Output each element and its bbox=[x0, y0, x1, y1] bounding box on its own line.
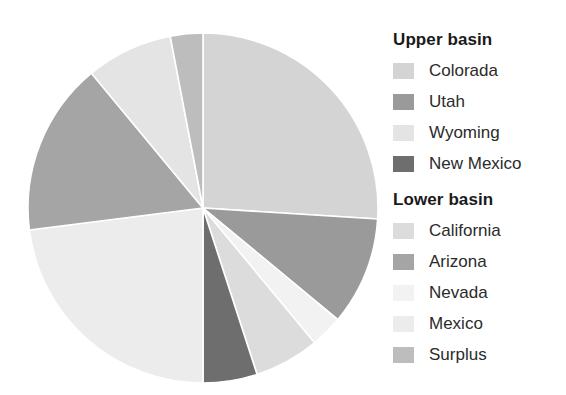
legend-item-surplus[interactable]: Surplus bbox=[389, 339, 566, 370]
legend-swatch-icon bbox=[393, 94, 414, 110]
legend-item-label: California bbox=[429, 221, 501, 241]
legend-item-label: Surplus bbox=[429, 345, 487, 365]
legend-item-label: Nevada bbox=[429, 283, 488, 303]
chart-legend: Upper basin Colorada Utah Wyoming New Me… bbox=[389, 30, 566, 374]
legend-item-utah[interactable]: Utah bbox=[389, 86, 566, 117]
legend-item-mexico[interactable]: Mexico bbox=[389, 308, 566, 339]
legend-group-title: Lower basin bbox=[393, 190, 566, 210]
legend-item-label: Wyoming bbox=[429, 123, 500, 143]
pie-slice-mexico[interactable] bbox=[29, 208, 203, 383]
legend-item-new-mexico[interactable]: New Mexico bbox=[389, 148, 566, 179]
legend-item-label: Arizona bbox=[429, 252, 487, 272]
legend-swatch-icon bbox=[393, 125, 414, 141]
pie-chart-area bbox=[0, 0, 380, 395]
legend-swatch-icon bbox=[393, 347, 414, 363]
legend-group-lower-basin: Lower basin California Arizona Nevada Me… bbox=[389, 190, 566, 370]
legend-item-label: New Mexico bbox=[429, 154, 522, 174]
legend-swatch-icon bbox=[393, 63, 414, 79]
pie-chart-figure: Upper basin Colorada Utah Wyoming New Me… bbox=[0, 0, 566, 395]
legend-item-arizona[interactable]: Arizona bbox=[389, 246, 566, 277]
legend-swatch-icon bbox=[393, 156, 414, 172]
legend-group-title: Upper basin bbox=[393, 30, 566, 50]
legend-item-nevada[interactable]: Nevada bbox=[389, 277, 566, 308]
legend-item-label: Mexico bbox=[429, 314, 483, 334]
legend-swatch-icon bbox=[393, 254, 414, 270]
legend-group-upper-basin: Upper basin Colorada Utah Wyoming New Me… bbox=[389, 30, 566, 179]
pie-chart-svg bbox=[0, 0, 380, 395]
legend-swatch-icon bbox=[393, 316, 414, 332]
legend-item-label: Colorada bbox=[429, 61, 498, 81]
legend-item-california[interactable]: California bbox=[389, 215, 566, 246]
legend-item-colorada[interactable]: Colorada bbox=[389, 55, 566, 86]
pie-slice-colorada[interactable] bbox=[203, 33, 378, 219]
legend-swatch-icon bbox=[393, 285, 414, 301]
legend-swatch-icon bbox=[393, 223, 414, 239]
legend-item-wyoming[interactable]: Wyoming bbox=[389, 117, 566, 148]
legend-item-label: Utah bbox=[429, 92, 465, 112]
